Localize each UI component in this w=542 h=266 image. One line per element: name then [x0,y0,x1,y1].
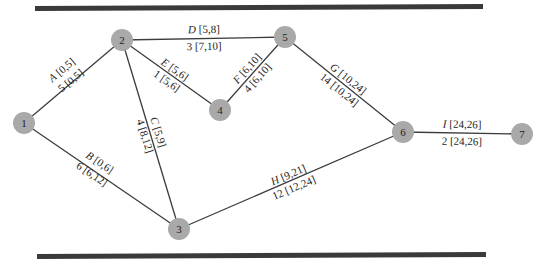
edge-label-D: D [5,8] 3 [7,10] [186,23,221,53]
edge-D-bottom-label: 3 [7,10] [187,40,222,53]
edge-I-top-label: I [24,26] [442,118,482,131]
edge-label-A: A [0,5] 5 [0,5] [45,55,86,95]
node-4: 4 [209,99,231,121]
node-5: 5 [274,26,296,48]
node-1: 1 [13,112,35,134]
edge-I-bottom-label: 2 [24,26] [442,135,483,148]
node-5-label: 5 [282,31,288,43]
node-6-label: 6 [400,126,406,138]
bottom-rule-bar [37,252,486,259]
node-7-label: 7 [519,128,525,140]
edge-I [403,132,522,134]
edge-label-C: C [5,9] 4 [8,12] [134,114,169,155]
node-7: 7 [511,123,533,145]
node-3: 3 [168,218,190,240]
node-6: 6 [392,121,414,143]
edge-D-top-label: D [5,8] [187,23,220,36]
network-diagram: A [0,5] 5 [0,5] B [0,6] 6 [6,12] C [5,9]… [0,0,542,266]
edge-H [179,132,403,229]
node-2: 2 [111,29,133,51]
node-2-label: 2 [119,34,125,46]
top-rule-bar [35,4,483,11]
node-1-label: 1 [21,117,27,129]
node-4-label: 4 [217,104,223,116]
node-3-label: 3 [176,223,182,235]
